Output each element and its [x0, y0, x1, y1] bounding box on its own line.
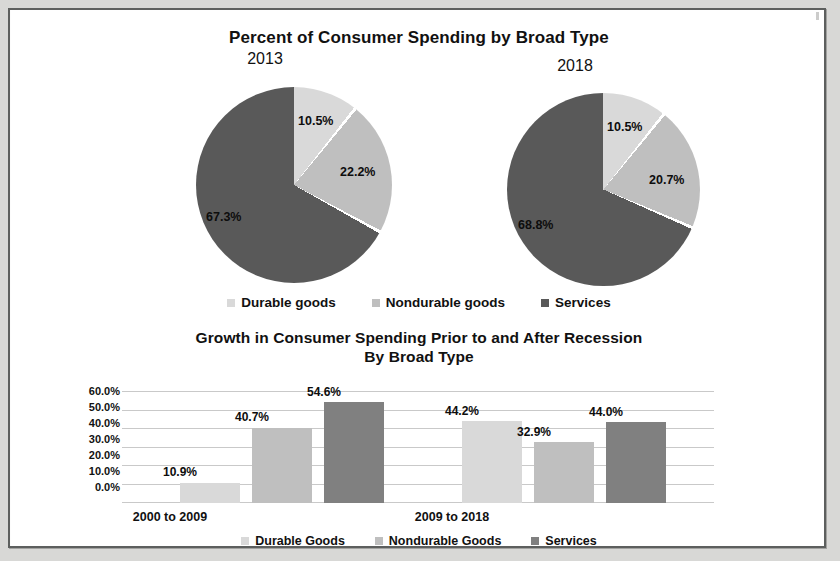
pie-2018-label-services: 68.8%: [518, 218, 553, 232]
y-tick-10: 10.0%: [58, 466, 120, 482]
legend-swatch-icon: [241, 537, 249, 545]
legend-swatch-icon: [227, 299, 235, 307]
bar-legend-label-services: Services: [545, 534, 596, 548]
legend-swatch-icon: [531, 537, 539, 545]
bar-value-2000-2009-durable: 10.9%: [150, 465, 210, 479]
pie-legend-label-services: Services: [555, 295, 611, 310]
legend-swatch-icon: [541, 299, 549, 307]
y-tick-40: 40.0%: [58, 418, 120, 434]
chart-sheet: Percent of Consumer Spending by Broad Ty…: [8, 8, 826, 548]
pie-legend-label-nondurable: Nondurable goods: [386, 295, 505, 310]
y-tick-20: 20.0%: [58, 450, 120, 466]
bar-category-label-2000-2009: 2000 to 2009: [100, 510, 240, 524]
pie-2018-label-durable: 10.5%: [607, 120, 642, 134]
bar-2000-2009-nondurable: [252, 428, 312, 503]
bar-value-2000-2009-nondurable: 40.7%: [222, 410, 282, 424]
pie-2013-label-services: 67.3%: [206, 210, 241, 224]
pie-chart-legend: Durable goods Nondurable goods Services: [10, 295, 828, 310]
bar-legend-item-nondurable: Nondurable Goods: [375, 534, 502, 548]
bar-value-2009-2018-nondurable: 32.9%: [504, 425, 564, 439]
pie-chart-title: Percent of Consumer Spending by Broad Ty…: [10, 28, 828, 48]
pie-2018-label-nondurable: 20.7%: [649, 173, 684, 187]
gridline-60: [122, 391, 714, 392]
pie-legend-item-durable: Durable goods: [227, 295, 336, 310]
bar-2000-2009-durable: [180, 483, 240, 503]
pie-chart-2013: [196, 87, 392, 283]
pie-2013-label-durable: 10.5%: [298, 114, 333, 128]
bar-legend-label-durable: Durable Goods: [255, 534, 345, 548]
scan-artifact: [816, 12, 819, 20]
bar-chart-y-axis: 60.0% 50.0% 40.0% 30.0% 20.0% 10.0% 0.0%: [58, 386, 120, 498]
bar-chart-title-line2: By Broad Type: [10, 347, 828, 366]
bar-chart-legend: Durable Goods Nondurable Goods Services: [10, 534, 828, 548]
pie-legend-label-durable: Durable goods: [241, 295, 336, 310]
scanned-page: Percent of Consumer Spending by Broad Ty…: [0, 0, 840, 561]
bar-chart-title: Growth in Consumer Spending Prior to and…: [10, 328, 828, 366]
legend-swatch-icon: [375, 537, 383, 545]
pie-legend-item-nondurable: Nondurable goods: [372, 295, 505, 310]
bar-value-2009-2018-durable: 44.2%: [432, 404, 492, 418]
bar-value-2009-2018-services: 44.0%: [576, 405, 636, 419]
legend-swatch-icon: [372, 299, 380, 307]
y-tick-30: 30.0%: [58, 434, 120, 450]
bar-2009-2018-nondurable: [534, 442, 594, 503]
bar-2000-2009-services: [324, 402, 384, 503]
y-tick-60: 60.0%: [58, 386, 120, 402]
bar-category-label-2009-2018: 2009 to 2018: [382, 510, 522, 524]
pie-right-year-label: 2018: [520, 57, 630, 75]
pie-legend-item-services: Services: [541, 295, 611, 310]
bar-value-2000-2009-services: 54.6%: [294, 385, 354, 399]
bar-legend-label-nondurable: Nondurable Goods: [389, 534, 502, 548]
pie-left-year-label: 2013: [210, 50, 320, 68]
y-tick-0: 0.0%: [58, 482, 120, 498]
bar-legend-item-durable: Durable Goods: [241, 534, 345, 548]
bar-2009-2018-services: [606, 422, 666, 503]
bar-chart-title-line1: Growth in Consumer Spending Prior to and…: [10, 328, 828, 347]
bar-legend-item-services: Services: [531, 534, 596, 548]
y-tick-50: 50.0%: [58, 402, 120, 418]
pie-chart-2018: [507, 93, 700, 286]
pie-2013-label-nondurable: 22.2%: [340, 165, 375, 179]
